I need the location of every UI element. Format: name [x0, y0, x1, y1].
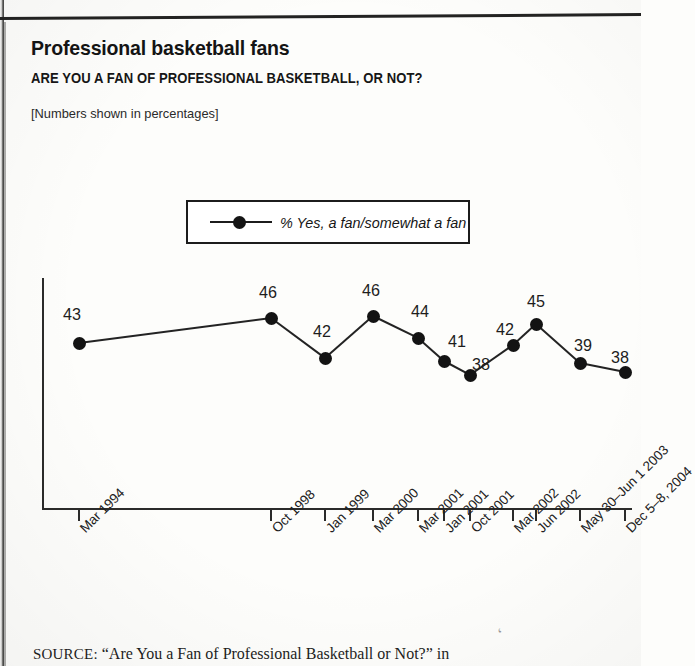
value-label-6: 38: [472, 355, 490, 375]
x-label-5: Jan 2001: [442, 486, 491, 535]
x-label-8: Jun 2002: [534, 486, 583, 535]
data-point-3: [367, 310, 380, 323]
source-citation: SOURCE: “Are You a Fan of Professional B…: [33, 645, 449, 663]
units-note: [Numbers shown in percentages]: [31, 106, 218, 121]
x-tick-2: [324, 510, 326, 521]
line-segment-2: [324, 315, 373, 358]
source-text: “Are You a Fan of Professional Basketbal…: [102, 645, 450, 662]
line-segment-3: [373, 315, 419, 339]
data-point-2: [319, 352, 332, 365]
x-label-9: May 30–Jun 1 2003: [578, 442, 671, 535]
data-point-1: [265, 312, 278, 325]
x-label-7: Mar 2002: [511, 485, 561, 535]
data-point-6: [464, 369, 477, 382]
x-tick-6: [469, 510, 471, 521]
value-label-10: 38: [611, 348, 629, 368]
x-label-1: Oct 1998: [269, 487, 318, 536]
line-segment-6: [469, 344, 513, 376]
x-label-2: Jan 1999: [323, 486, 372, 535]
source-label: SOURCE:: [33, 646, 98, 662]
value-label-2: 42: [313, 322, 331, 342]
data-point-0: [73, 337, 86, 350]
value-label-0: 43: [63, 305, 81, 325]
value-label-1: 46: [259, 283, 277, 303]
x-tick-5: [443, 510, 445, 521]
data-point-5: [438, 355, 451, 368]
legend-marker-icon: [210, 215, 272, 229]
value-label-3: 46: [362, 281, 380, 301]
value-label-7: 42: [496, 320, 514, 340]
value-label-4: 44: [411, 302, 429, 322]
data-point-9: [574, 357, 587, 370]
header-divider-rule: [0, 13, 641, 20]
line-segment-8: [535, 323, 580, 363]
line-segment-0: [79, 317, 271, 344]
page-title: Professional basketball fans: [31, 36, 290, 60]
x-tick-10: [624, 510, 626, 521]
scan-stray-mark: ‘: [495, 622, 509, 637]
data-point-8: [530, 318, 543, 331]
data-point-10: [619, 366, 632, 379]
line-segment-5: [444, 360, 471, 376]
x-tick-1: [270, 510, 272, 521]
x-tick-0: [78, 510, 80, 521]
x-tick-4: [417, 510, 419, 521]
data-point-7: [507, 339, 520, 352]
x-label-4: Mar 2001: [416, 485, 466, 535]
x-label-6: Oct 2001: [468, 487, 517, 536]
x-label-3: Mar 2000: [371, 485, 421, 535]
page-subtitle: ARE YOU A FAN OF PROFESSIONAL BASKETBALL…: [31, 70, 423, 86]
line-segment-4: [417, 337, 444, 361]
value-label-5: 41: [448, 332, 466, 352]
data-point-4: [412, 332, 425, 345]
x-label-10: Dec 5–8, 2004: [623, 464, 695, 536]
line-segment-1: [270, 317, 325, 359]
value-label-9: 39: [574, 336, 592, 356]
x-label-0: Mar 1994: [77, 485, 127, 535]
x-tick-8: [535, 510, 537, 521]
value-label-8: 45: [527, 292, 545, 312]
y-axis-line: [42, 278, 44, 510]
x-axis-line: [42, 508, 632, 510]
x-tick-7: [512, 510, 514, 521]
line-segment-7: [512, 323, 536, 345]
chart-legend: % Yes, a fan/somewhat a fan: [186, 200, 470, 244]
x-tick-9: [579, 510, 581, 521]
legend-item-label: % Yes, a fan/somewhat a fan: [280, 214, 466, 231]
x-tick-3: [372, 510, 374, 521]
page-left-edge-artifact-secondary: [4, 22, 6, 666]
line-segment-9: [580, 362, 625, 373]
